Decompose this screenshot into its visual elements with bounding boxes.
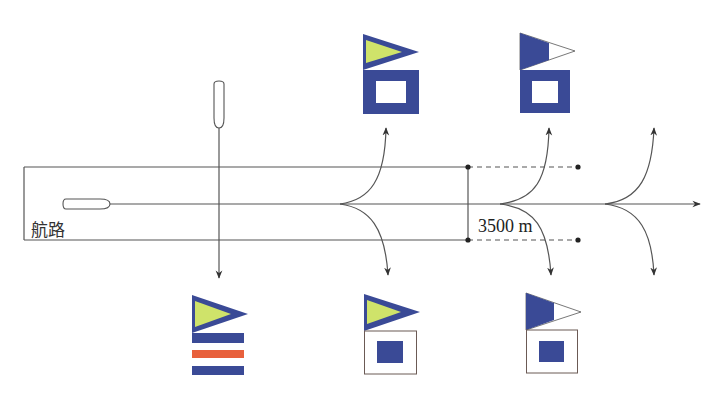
branch-arrows-2 [500,128,551,275]
boat-horizontal-icon [63,199,110,209]
branch-arrows-3 [605,128,654,275]
branch-arrows-1 [340,128,388,275]
flag-bottom-2-icon [364,294,420,374]
distance-label: 3500 m [478,216,533,236]
flag-bottom-1-icon [192,295,248,375]
navigation-diagram: 航路 3500 m [0,0,721,404]
flag-bottom-3-icon [526,293,581,373]
flag-top-2-icon [520,33,575,113]
channel-label: 航路 [31,220,65,240]
boat-vertical-icon [214,81,224,128]
flag-top-1-icon [363,34,419,114]
